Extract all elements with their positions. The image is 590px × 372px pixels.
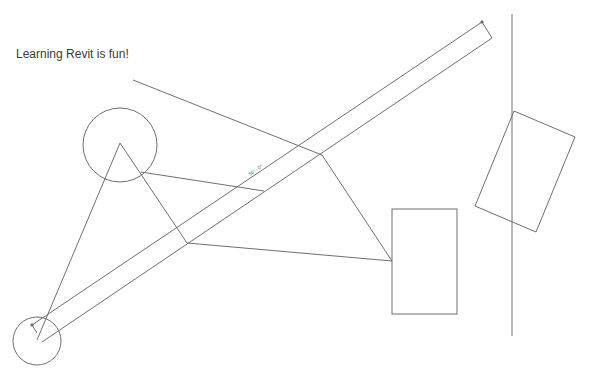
triangle-right-leg[interactable] bbox=[120, 143, 187, 243]
large-circle[interactable] bbox=[83, 108, 157, 182]
quad-bottom-edge[interactable] bbox=[187, 243, 392, 261]
band-bottom-edge[interactable] bbox=[42, 38, 492, 342]
triangle-left-leg[interactable] bbox=[37, 143, 120, 340]
band-top-edge[interactable] bbox=[32, 22, 482, 325]
small-circle[interactable] bbox=[13, 317, 61, 365]
text-note[interactable]: Learning Revit is fun! bbox=[16, 47, 129, 61]
quad-right-edge[interactable] bbox=[322, 155, 392, 261]
dimension-tick-icon bbox=[31, 324, 33, 326]
drawing-canvas[interactable]: 50' - 0" Learning Revit is fun! bbox=[0, 0, 590, 372]
diagonal-band[interactable] bbox=[32, 22, 492, 342]
rectangle[interactable] bbox=[392, 209, 457, 314]
quad-top-edge[interactable] bbox=[133, 80, 322, 155]
band-end-cap-right[interactable] bbox=[482, 22, 492, 38]
rotated-rectangle[interactable] bbox=[475, 111, 575, 232]
dimension-tick-icon bbox=[481, 21, 483, 23]
